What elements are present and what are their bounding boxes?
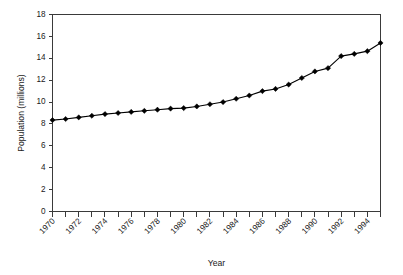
data-point-marker (181, 105, 186, 110)
data-point-marker (220, 99, 225, 104)
x-tick-label: 1986 (248, 216, 268, 236)
x-tick-label: 1978 (143, 216, 163, 236)
data-point-marker (50, 118, 55, 123)
x-tick-label: 1994 (353, 216, 373, 236)
x-tick-label: 1976 (116, 216, 136, 236)
x-tick-label: 1988 (274, 216, 294, 236)
data-point-marker (286, 82, 291, 87)
y-tick-label: 8 (41, 119, 46, 128)
data-point-marker (352, 51, 357, 56)
data-point-marker (207, 102, 212, 107)
data-point-marker (194, 104, 199, 109)
data-point-marker (168, 106, 173, 111)
y-tick-label: 14 (36, 53, 46, 62)
x-tick-label: 1972 (64, 216, 84, 236)
population-line-chart-figure: 0246810121416181970197219741976197819801… (0, 0, 403, 275)
x-tick-label: 1982 (195, 216, 215, 236)
y-tick-label: 12 (36, 75, 46, 84)
data-point-marker (63, 116, 68, 121)
data-point-marker (299, 75, 304, 80)
data-point-marker (155, 107, 160, 112)
y-axis-title: Population (millions) (16, 74, 26, 152)
y-tick-label: 6 (41, 141, 46, 150)
plot-frame (53, 15, 381, 212)
data-point-marker (378, 40, 383, 45)
data-point-marker (247, 93, 252, 98)
data-point-marker (129, 109, 134, 114)
x-axis-title: Year (208, 258, 226, 268)
y-tick-label: 18 (36, 10, 46, 19)
y-tick-label: 16 (36, 32, 46, 41)
data-point-marker (89, 113, 94, 118)
chart-canvas: 0246810121416181970197219741976197819801… (0, 0, 403, 275)
series-line-population (53, 43, 381, 120)
data-point-marker (234, 96, 239, 101)
y-tick-label: 4 (41, 163, 46, 172)
data-point-marker (365, 49, 370, 54)
data-point-marker (273, 86, 278, 91)
y-tick-label: 10 (36, 97, 46, 106)
x-tick-label: 1990 (300, 216, 320, 236)
y-tick-label: 0 (41, 207, 46, 216)
data-point-marker (116, 110, 121, 115)
x-tick-label: 1984 (221, 216, 241, 236)
x-tick-label: 1970 (38, 216, 58, 236)
data-point-marker (142, 108, 147, 113)
data-point-marker (260, 89, 265, 94)
x-tick-label: 1974 (90, 216, 110, 236)
data-point-marker (102, 111, 107, 116)
data-point-marker (76, 115, 81, 120)
x-tick-label: 1980 (169, 216, 189, 236)
y-tick-label: 2 (41, 185, 46, 194)
data-point-marker (312, 69, 317, 74)
x-tick-label: 1992 (326, 216, 346, 236)
